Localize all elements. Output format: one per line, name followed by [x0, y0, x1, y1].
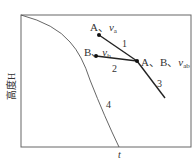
- line-label-2: 2: [112, 63, 117, 74]
- label-a: A、va: [90, 21, 118, 35]
- point-ab: [135, 59, 139, 63]
- point-a: [97, 33, 101, 37]
- label-ab: A、B、vab: [141, 56, 190, 70]
- plot-frame: [21, 15, 191, 147]
- x-axis-label: t: [118, 149, 121, 160]
- line-label-3: 3: [157, 78, 162, 89]
- label-b: B、vb: [84, 46, 111, 60]
- line-label-4: 4: [106, 99, 111, 110]
- diagram: A、va B、vb A、B、vab 1 2 3 4 t 高度H: [0, 0, 196, 161]
- line-label-1: 1: [122, 38, 127, 49]
- curve-4: [21, 15, 119, 147]
- y-axis-label: 高度H: [5, 73, 17, 100]
